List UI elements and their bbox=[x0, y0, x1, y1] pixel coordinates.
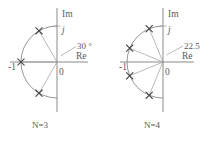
pole-marker bbox=[146, 26, 152, 32]
pole-marker bbox=[127, 45, 133, 51]
angle-annotation-label: 22.5 bbox=[184, 41, 200, 51]
plot-caption: N=3 bbox=[32, 120, 49, 130]
plot-caption: N=4 bbox=[144, 120, 161, 130]
unit-imag-label: j bbox=[166, 25, 171, 35]
pole-plot-figure: Im j 30 ° Re 0 -1 N=3 bbox=[0, 0, 219, 141]
plot-left-n3: Im j 30 ° Re 0 -1 N=3 bbox=[8, 8, 92, 130]
plot-right-n4: Im j 22.5 Re 0 -1 N=4 bbox=[119, 8, 200, 130]
real-axis-label: Re bbox=[182, 51, 193, 61]
imag-axis-label: Im bbox=[168, 9, 179, 19]
angle-annotation-label: 30 ° bbox=[77, 41, 92, 51]
pole-plot-svg: Im j 30 ° Re 0 -1 N=3 bbox=[0, 0, 219, 141]
pole-marker bbox=[36, 28, 42, 34]
angle-leader-line bbox=[167, 46, 184, 55]
unit-imag-label: j bbox=[60, 25, 65, 35]
origin-label: 0 bbox=[59, 67, 64, 77]
origin-label: 0 bbox=[165, 67, 170, 77]
radius-pole-120 bbox=[39, 31, 57, 62]
pole-marker bbox=[127, 73, 133, 79]
real-axis-label: Re bbox=[76, 51, 87, 61]
angle-leader-line bbox=[61, 47, 77, 57]
radius-pole-240 bbox=[39, 62, 57, 93]
pole-marker bbox=[146, 92, 152, 98]
pole-marker bbox=[36, 90, 42, 96]
minus-one-label: -1 bbox=[8, 62, 16, 72]
minus-one-label: -1 bbox=[119, 62, 127, 72]
imag-axis-label: Im bbox=[62, 9, 73, 19]
